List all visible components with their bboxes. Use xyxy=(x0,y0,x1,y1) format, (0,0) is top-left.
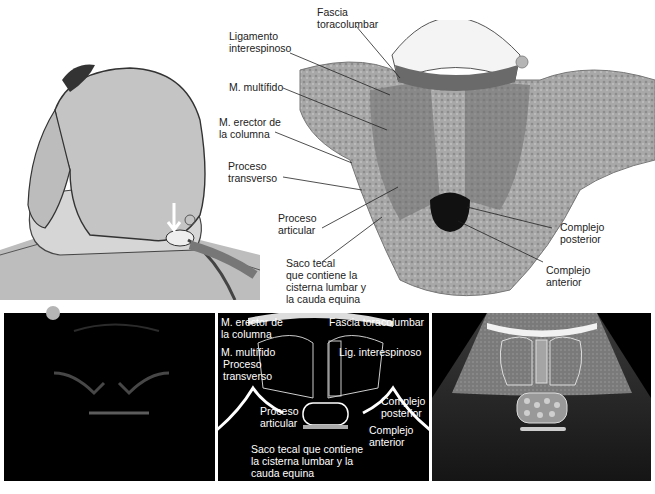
seated-patient-back-graphic xyxy=(0,40,260,300)
patient-illustration xyxy=(0,40,260,300)
schematic-ultrasound-graphic xyxy=(432,313,651,481)
ultrasound-raw-graphic xyxy=(4,313,215,481)
marker-dot xyxy=(516,56,528,68)
us-label-complejo-posterior: Complejo posterior xyxy=(381,395,425,419)
us-label-saco-tecal: Saco tecal que contiene la cisterna lumb… xyxy=(251,443,363,479)
marker-dot xyxy=(46,306,60,320)
label-proceso-transverso: Proceso transverso xyxy=(228,160,277,184)
us-label-transverso: Proceso transverso xyxy=(223,358,272,382)
us-label-erector: M. erector de la columna xyxy=(221,316,283,340)
us-label-articular: Proceso articular xyxy=(260,405,299,429)
label-erector-columna: M. erector de la columna xyxy=(219,116,281,140)
label-saco-tecal: Saco tecal que contiene la cisterna lumb… xyxy=(286,257,366,305)
us-label-lig-interespinoso: Lig. interespinoso xyxy=(339,346,421,358)
label-fascia-toracolumbar: Fascia toracolumbar xyxy=(317,6,378,30)
schematic-panel xyxy=(432,313,651,481)
label-proceso-articular: Proceso articular xyxy=(278,212,317,236)
label-complejo-anterior: Complejo anterior xyxy=(546,264,590,288)
us-label-fascia: Fascia toracolumbar xyxy=(329,316,424,328)
us-label-multifido: M. multífido xyxy=(221,346,275,358)
label-multifido: M. multífido xyxy=(229,81,283,93)
ultrasound-raw-panel xyxy=(4,313,215,481)
label-ligamento-interespinoso: Ligamento interespinoso xyxy=(229,30,291,54)
us-label-complejo-anterior: Complejo anterior xyxy=(369,424,413,448)
label-complejo-posterior: Complejo posterior xyxy=(560,221,604,245)
